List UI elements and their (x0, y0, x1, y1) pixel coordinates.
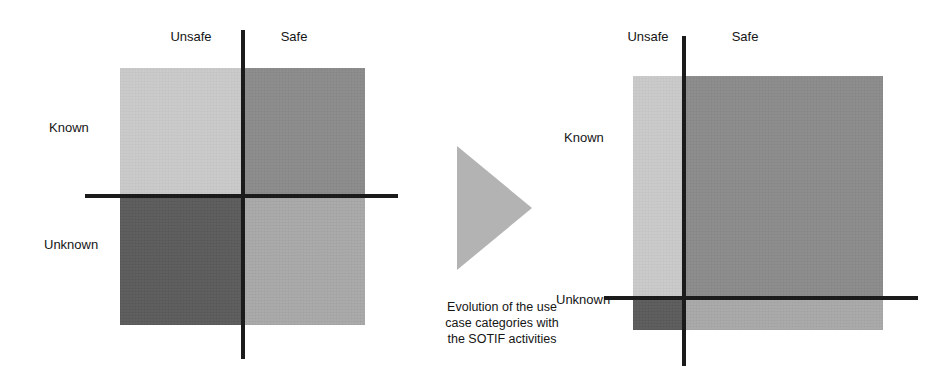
right-label-safe: Safe (700, 29, 790, 44)
right-label-unknown: Unknown (556, 292, 646, 307)
left-quadrant-unknown-unsafe (120, 196, 243, 325)
left-quadrant-known-unsafe (120, 68, 243, 196)
right-vertical-axis (682, 36, 686, 366)
right-horizontal-axis (604, 296, 918, 300)
evolution-caption-line-3: the SOTIF activities (407, 331, 597, 347)
evolution-caption-line-2: case categories with (407, 315, 597, 331)
right-quadrant-unknown-safe (684, 298, 883, 330)
right-triangle-arrow-icon (457, 146, 532, 270)
right-quadrant-known-safe (684, 76, 883, 298)
left-quadrant-known-safe (243, 68, 365, 196)
left-horizontal-axis (85, 194, 398, 198)
left-label-known: Known (49, 120, 129, 135)
left-label-unknown: Unknown (44, 237, 134, 252)
right-label-known: Known (564, 130, 644, 145)
left-quadrant-unknown-safe (243, 196, 365, 325)
left-label-safe: Safe (249, 29, 339, 44)
right-label-unsafe: Unsafe (615, 29, 681, 44)
right-quadrant-known-unsafe (633, 76, 684, 298)
left-label-unsafe: Unsafe (146, 29, 236, 44)
sotif-use-case-evolution-figure: Unsafe Safe Known Unknown Evolution of t… (0, 0, 944, 383)
